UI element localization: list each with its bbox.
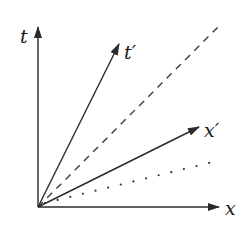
x-prime-axis — [38, 127, 199, 207]
x-prime-axis-label: x′ — [204, 119, 220, 141]
x-axis-label: x — [225, 197, 236, 219]
t-axis-label: t — [20, 25, 28, 47]
spacetime-diagram: t x t′ x′ — [0, 0, 251, 227]
t-prime-axis — [38, 44, 119, 207]
diagram-canvas: t x t′ x′ — [0, 0, 251, 227]
dotted-line — [45, 162, 213, 203]
t-prime-axis-label: t′ — [124, 41, 137, 63]
